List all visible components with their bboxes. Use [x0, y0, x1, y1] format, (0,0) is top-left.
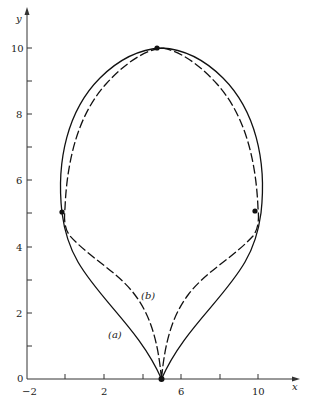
curve-a-label: (a) [108, 329, 122, 340]
chart-figure: y x 0 10 8 6 4 2 −2 2 6 10 (a) (b) [0, 0, 312, 407]
axes [27, 12, 296, 379]
point-bottom [159, 376, 165, 382]
x-tick-label-neg2: −2 [22, 386, 37, 397]
curve-b-label: (b) [141, 290, 155, 301]
curve-b-dashed [65, 48, 259, 379]
y-tick-label-2: 2 [16, 308, 22, 319]
key-points [59, 45, 257, 382]
y-axis-label: y [15, 13, 22, 24]
x-tick-label-6: 6 [178, 386, 184, 397]
curve-a-solid [61, 48, 263, 379]
y-tick-label-8: 8 [16, 109, 22, 120]
y-ticks [27, 48, 32, 346]
point-left [59, 209, 64, 214]
y-axis-arrow-icon [25, 7, 30, 15]
x-axis-label: x [292, 381, 298, 392]
point-right [252, 208, 257, 213]
origin-label: 0 [17, 373, 23, 384]
y-tick-label-10: 10 [11, 43, 24, 54]
y-tick-label-4: 4 [16, 242, 22, 253]
x-tick-label-10: 10 [252, 386, 265, 397]
x-tick-label-2: 2 [101, 386, 107, 397]
chart-svg: y x 0 10 8 6 4 2 −2 2 6 10 (a) (b) [0, 0, 312, 407]
point-top [154, 45, 159, 50]
y-tick-label-6: 6 [16, 175, 22, 186]
